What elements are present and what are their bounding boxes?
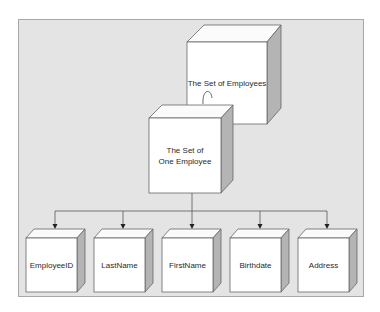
label-line-2: One Employee [159,156,212,167]
label-address: Address [298,259,349,271]
label-set-of-employees: The Set of Employees [187,76,267,90]
connector-arrowheads [53,224,330,229]
label-lastname: LastName [94,259,145,271]
label-line-1: The Set of [167,145,204,156]
label-set-of-one-employee: The Set of One Employee [149,144,221,168]
connector-lines [55,193,327,224]
label-firstname: FirstName [162,259,213,271]
label-employeeid: EmployeeID [26,259,77,271]
label-birthdate: Birthdate [230,259,281,271]
